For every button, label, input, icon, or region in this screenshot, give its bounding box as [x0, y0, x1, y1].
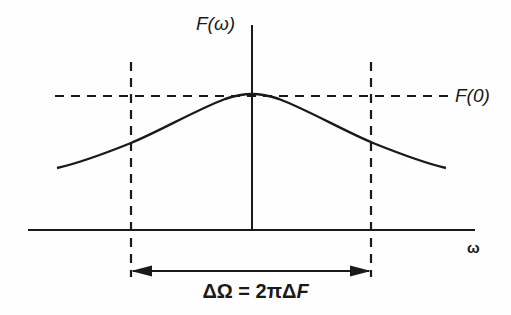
bandwidth-arrow-group: [131, 266, 371, 277]
bandwidth-arrowhead-left: [131, 266, 152, 277]
bandwidth-formula-label: ΔΩ = 2πΔF: [0, 281, 511, 301]
x-axis-label: ω: [467, 240, 480, 255]
y-axis-label: F(ω): [196, 14, 235, 33]
bandwidth-formula-variable: F: [296, 280, 308, 302]
bandwidth-formula-prefix: ΔΩ = 2πΔ: [202, 280, 296, 302]
peak-value-label: F(0): [455, 86, 490, 105]
figure-container: F(ω) F(0) ω ΔΩ = 2πΔF: [0, 0, 511, 315]
bandwidth-arrowhead-right: [350, 266, 371, 277]
spectrum-figure-svg: [0, 0, 511, 315]
